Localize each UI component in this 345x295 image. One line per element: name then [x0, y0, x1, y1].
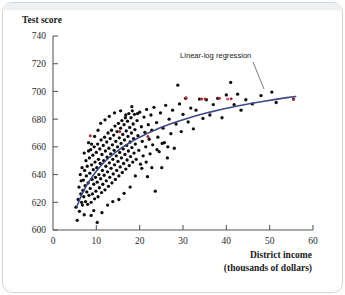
data-point: [88, 156, 91, 159]
x-axis-title-line1: District income: [250, 250, 312, 260]
data-point: [108, 115, 111, 118]
data-point: [239, 108, 242, 111]
data-point: [141, 154, 144, 157]
data-point: [81, 203, 84, 206]
data-point: [178, 102, 181, 105]
data-point: [96, 195, 99, 198]
data-point: [121, 171, 124, 174]
annotation-leader-line: [253, 62, 264, 89]
data-point: [97, 158, 100, 161]
data-point: [116, 160, 119, 163]
data-point: [104, 149, 107, 152]
data-point: [220, 116, 223, 119]
data-point: [87, 194, 90, 197]
data-point: [121, 133, 124, 136]
data-point: [117, 122, 120, 125]
scatter-plot: 600620640660680700720740 0102030405060 L…: [0, 0, 345, 295]
data-point: [111, 200, 114, 203]
data-point: [147, 123, 150, 126]
data-point: [275, 101, 278, 104]
data-point: [164, 104, 167, 107]
x-axis-ticks: [96, 225, 313, 230]
data-point: [89, 201, 92, 204]
data-point: [92, 183, 95, 186]
data-point: [167, 117, 170, 120]
data-point: [113, 163, 116, 166]
data-point: [89, 214, 92, 217]
data-point: [90, 142, 93, 145]
data-point: [111, 158, 114, 161]
data-point: [154, 190, 157, 193]
data-point: [135, 119, 138, 122]
data-point: [132, 122, 135, 125]
data-point: [150, 166, 153, 169]
data-point: [159, 111, 162, 114]
x-tick-label: 60: [308, 236, 318, 246]
data-point: [137, 149, 140, 152]
data-point: [82, 195, 85, 198]
data-point: [94, 190, 97, 193]
data-point: [118, 151, 121, 154]
data-point: [236, 93, 239, 96]
data-point: [201, 117, 204, 120]
data-point: [103, 118, 106, 121]
data-point: [109, 167, 112, 170]
data-point: [155, 148, 158, 151]
y-axis-ticks: [53, 36, 58, 230]
data-point: [106, 170, 109, 173]
data-point: [244, 98, 247, 101]
data-point: [85, 174, 88, 177]
data-point: [80, 166, 83, 169]
data-point: [129, 116, 132, 119]
data-point: [130, 105, 133, 108]
data-point: [77, 185, 80, 188]
y-tick-label: 740: [32, 31, 47, 41]
data-point: [117, 174, 120, 177]
data-point: [105, 140, 108, 143]
data-point: [259, 94, 262, 97]
data-point: [93, 160, 96, 163]
data-point: [142, 115, 145, 118]
data-point: [119, 109, 122, 112]
data-point: [140, 167, 143, 170]
data-point: [133, 128, 136, 131]
data-point: [119, 126, 122, 129]
y-tick-label: 600: [32, 225, 47, 235]
data-point: [134, 142, 137, 145]
data-point: [108, 161, 111, 164]
data-point: [85, 190, 88, 193]
data-point: [88, 172, 91, 175]
data-point: [166, 156, 169, 159]
data-point: [127, 149, 130, 152]
data-point: [87, 149, 90, 152]
data-point: [229, 81, 232, 84]
figure-canvas: 600620640660680700720740 0102030405060 L…: [0, 0, 345, 295]
data-point: [145, 160, 148, 163]
data-point: [173, 147, 176, 150]
y-tick-label: 700: [32, 87, 47, 97]
data-point: [93, 135, 96, 138]
data-point: [98, 147, 101, 150]
data-point: [113, 124, 116, 127]
annotation-label: Linear-log regression: [180, 51, 251, 60]
data-point: [124, 167, 127, 170]
data-point: [106, 131, 109, 134]
data-point: [120, 156, 123, 159]
data-point: [98, 186, 101, 189]
data-point: [218, 97, 221, 100]
data-point: [126, 135, 129, 138]
data-point: [148, 152, 151, 155]
data-point: [89, 134, 92, 137]
data-point: [107, 147, 110, 150]
data-point: [176, 84, 179, 87]
data-point: [92, 168, 95, 171]
data-point: [102, 174, 105, 177]
data-point: [119, 142, 122, 145]
data-point: [128, 126, 131, 129]
data-point: [106, 203, 109, 206]
x-tick-label: 20: [135, 236, 145, 246]
data-point: [292, 97, 295, 100]
data-point: [124, 116, 127, 119]
data-point: [82, 178, 85, 181]
data-point: [99, 122, 102, 125]
